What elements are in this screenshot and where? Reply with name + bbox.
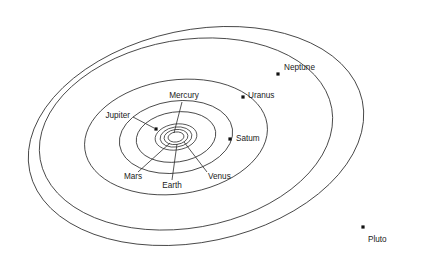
orbit-jupiter <box>133 107 219 168</box>
orbit-canvas: MercuryVenusEarthMarsJupiterSatumUranusN… <box>0 0 439 278</box>
orbit-saturn <box>115 93 238 180</box>
planet-label-uranus: Uranus <box>248 91 274 100</box>
orbit-mercury <box>167 131 184 143</box>
leader-line-venus <box>184 142 207 172</box>
orbit-neptune <box>24 16 348 253</box>
solar-system-diagram: MercuryVenusEarthMarsJupiterSatumUranusN… <box>0 0 439 278</box>
planet-label-earth: Earth <box>162 181 182 190</box>
planet-dot-neptune <box>276 72 279 75</box>
planet-dot-saturn <box>228 137 231 140</box>
planet-dot-jupiter <box>154 127 157 130</box>
planet-dot-uranus <box>241 95 244 98</box>
planet-label-neptune: Neptune <box>284 63 315 72</box>
orbit-ellipses-group <box>8 0 385 275</box>
planet-label-mars: Mars <box>124 172 142 181</box>
planet-label-venus: Venus <box>208 172 231 181</box>
planet-labels-group: MercuryVenusEarthMarsJupiterSatumUranusN… <box>105 63 387 244</box>
planet-label-jupiter: Jupiter <box>105 111 130 120</box>
leader-line-jupiter <box>133 117 154 128</box>
leader-line-mars <box>138 143 170 172</box>
leader-line-mercury <box>174 102 182 133</box>
orbit-pluto <box>8 0 385 275</box>
planet-dot-pluto <box>361 225 364 228</box>
planet-label-pluto: Pluto <box>368 235 387 244</box>
planet-label-saturn: Satum <box>236 134 260 143</box>
planet-label-mercury: Mercury <box>169 91 199 100</box>
